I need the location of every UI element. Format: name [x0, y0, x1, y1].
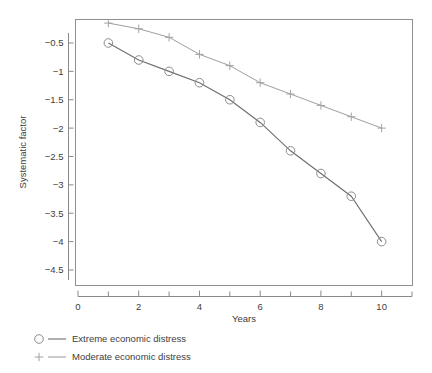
y-tick-label: −1	[53, 66, 64, 77]
x-axis-title: Years	[232, 313, 256, 324]
y-axis-title: Systematic factor	[17, 116, 28, 189]
chart-figure: −0.5−1−1.5−2−2.5−3−3.5−4−4.5 0246810 Sys…	[0, 0, 432, 373]
x-tick-label: 4	[197, 301, 202, 312]
x-tick-label: 0	[75, 301, 80, 312]
legend-label: Extreme economic distress	[72, 333, 186, 344]
y-tick-label: −3	[53, 179, 64, 190]
x-tick-label: 2	[136, 301, 141, 312]
y-tick-label: −2.5	[45, 151, 64, 162]
y-tick-label: −0.5	[45, 37, 64, 48]
chart-background	[0, 0, 432, 373]
y-tick-label: −4	[53, 236, 64, 247]
legend-label: Moderate economic distress	[72, 351, 191, 362]
y-tick-label: −3.5	[45, 208, 64, 219]
x-tick-label: 8	[318, 301, 323, 312]
x-tick-label: 6	[258, 301, 263, 312]
y-tick-label: −4.5	[45, 264, 64, 275]
y-tick-label: −1.5	[45, 94, 64, 105]
line-chart: −0.5−1−1.5−2−2.5−3−3.5−4−4.5 0246810 Sys…	[0, 0, 432, 373]
y-tick-label: −2	[53, 123, 64, 134]
x-tick-label: 10	[376, 301, 387, 312]
